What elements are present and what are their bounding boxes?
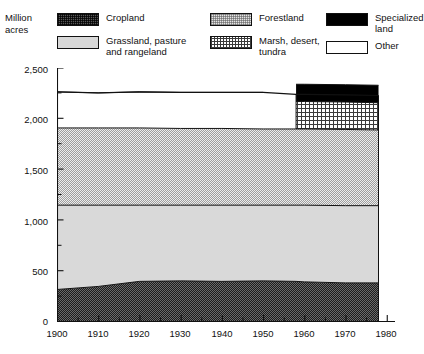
specialized-land-swatch [326, 13, 368, 26]
legend-label-marsh: Marsh, desert, tundra [259, 35, 320, 58]
other-swatch [326, 41, 368, 54]
y-tick-label-1000: 1,000 [6, 216, 48, 227]
cropland-swatch [57, 13, 99, 26]
stacked-area-chart [57, 68, 395, 322]
legend-label-forestland: Forestland [259, 12, 304, 23]
x-tick-label-1920: 1920 [119, 328, 159, 339]
x-tick-label-1960: 1960 [284, 328, 324, 339]
legend-label-other: Other [375, 40, 399, 51]
legend-item-grassland: Grassland, pasture and rangeland [57, 35, 186, 58]
x-tick-label-1900: 1900 [37, 328, 77, 339]
y-tick-label-2000: 2,000 [6, 114, 48, 125]
forestland-swatch [210, 13, 252, 26]
marsh-swatch [210, 36, 252, 49]
x-tick-label-1980: 1980 [366, 328, 406, 339]
area-cropland [57, 281, 379, 322]
boundary-grassland-pasture-and-rangeland [57, 205, 379, 206]
legend-label-grassland: Grassland, pasture and rangeland [106, 35, 186, 58]
x-tick-label-1930: 1930 [160, 328, 200, 339]
legend-label-specialized-land: Specialized land [375, 12, 424, 35]
grassland-swatch [57, 36, 99, 49]
chart-areas [57, 84, 379, 322]
legend-item-marsh: Marsh, desert, tundra [210, 35, 320, 58]
y-tick-label-1500: 1,500 [6, 165, 48, 176]
y-tick-label-500: 500 [6, 266, 48, 277]
legend: Cropland Grassland, pasture and rangelan… [0, 0, 423, 62]
chart-canvas [57, 68, 395, 322]
area-forestland [57, 128, 379, 206]
x-tick-label-1940: 1940 [202, 328, 242, 339]
y-tick-label-0: 0 [6, 316, 48, 327]
legend-item-forestland: Forestland [210, 12, 304, 26]
area-marsh-desert-tundra [296, 102, 378, 130]
x-tick-label-1950: 1950 [243, 328, 283, 339]
legend-item-other: Other [326, 40, 399, 54]
legend-label-cropland: Cropland [106, 12, 145, 23]
area-other [57, 92, 263, 129]
x-tick-label-1910: 1910 [78, 328, 118, 339]
legend-item-specialized-land: Specialized land [326, 12, 424, 35]
area-grassland-pasture-and-rangeland [57, 205, 379, 289]
y-tick-label-2500: 2,500 [6, 64, 48, 75]
x-tick-label-1970: 1970 [325, 328, 365, 339]
legend-item-cropland: Cropland [57, 12, 145, 26]
area-specialized-land [296, 84, 378, 102]
